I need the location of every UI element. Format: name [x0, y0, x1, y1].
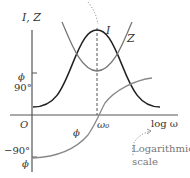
tick-phi-top-label: ϕ	[18, 71, 25, 82]
origin-label: O	[20, 119, 28, 130]
annotation-line2: scale	[132, 156, 158, 167]
diagram-canvas: I, Z ϕ 90° O −90° ϕ I Z ϕ ω₀ log ω Logar…	[0, 0, 190, 178]
axis-x-label: log ω	[151, 118, 178, 129]
omega0-label: ω₀	[97, 119, 109, 130]
curve-I-label: I	[105, 24, 111, 37]
resonance-diagram: I, Z ϕ 90° O −90° ϕ I Z ϕ ω₀ log ω Logar…	[0, 0, 190, 178]
tick-90-label: 90°	[14, 82, 32, 93]
axis-y-label: I, Z	[21, 11, 41, 24]
annotation-line1: Logarithmic	[132, 143, 190, 154]
tick-neg90-label: −90°	[4, 145, 30, 156]
curve-phi-label: ϕ	[73, 127, 80, 138]
curve-Z-label: Z	[126, 32, 135, 45]
tick-phi-bottom-label: ϕ	[22, 158, 29, 169]
top-annotation-arrow	[88, 2, 98, 24]
